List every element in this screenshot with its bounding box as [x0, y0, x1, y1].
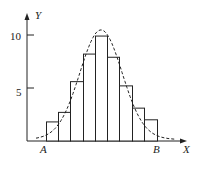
y-arrow-icon	[25, 13, 30, 20]
label-b: B	[153, 143, 160, 155]
histogram-bar	[108, 57, 120, 141]
histogram-bar	[59, 112, 71, 141]
histogram-bar	[96, 36, 108, 141]
y-axis-label: Y	[35, 9, 43, 21]
y-tick-10: 10	[10, 30, 22, 42]
histogram-chart: Y X 10 5 A B	[0, 0, 198, 175]
histogram-bar	[120, 86, 133, 141]
bars	[47, 36, 158, 141]
histogram-bar	[145, 120, 158, 141]
histogram-bar	[84, 54, 96, 141]
label-a: A	[39, 143, 47, 155]
histogram-bar	[71, 82, 84, 141]
histogram-bar	[133, 108, 145, 141]
x-axis-label: X	[182, 143, 191, 155]
y-tick-5: 5	[16, 86, 22, 98]
